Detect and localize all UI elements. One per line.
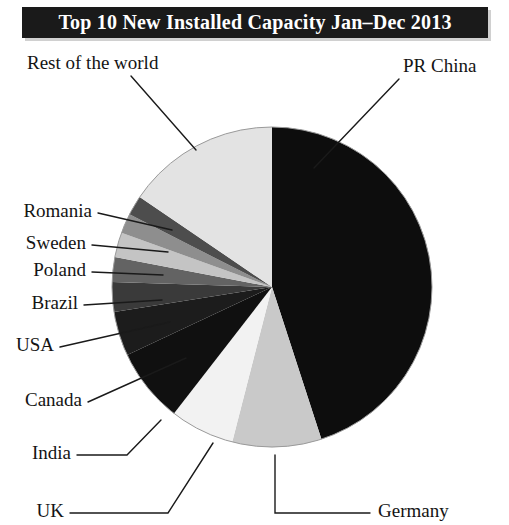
pie-label-brazil: Brazil [32, 292, 78, 313]
pie-label-sweden: Sweden [26, 232, 87, 253]
pie-label-usa: USA [16, 334, 54, 355]
pie-label-romania: Romania [23, 200, 92, 221]
pie-chart-figure: Top 10 New Installed Capacity Jan–Dec 20… [0, 0, 509, 525]
leader-line-india [77, 420, 161, 455]
pie-label-canada: Canada [25, 389, 83, 410]
leader-line-germany [275, 455, 370, 513]
leader-line-uk [70, 443, 213, 513]
pie-label-rest-of-the-world: Rest of the world [27, 52, 159, 73]
pie-label-india: India [32, 442, 72, 463]
leader-line-rest-of-the-world [131, 76, 196, 150]
pie-label-poland: Poland [33, 259, 86, 280]
pie-label-germany: Germany [378, 500, 449, 521]
pie-label-uk: UK [37, 500, 65, 521]
pie-label-pr-china: PR China [403, 55, 477, 76]
pie-slices-group [112, 127, 432, 447]
pie-plot-area: Rest of the world PR China Romania Swede… [0, 0, 509, 525]
